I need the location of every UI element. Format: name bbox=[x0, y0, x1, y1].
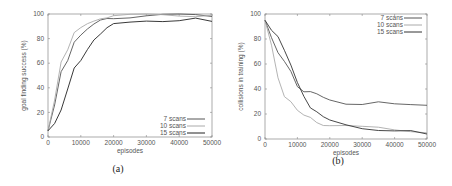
y-axis-label: collisions in training (%) bbox=[237, 42, 245, 110]
y-tick-label: 0 bbox=[40, 133, 44, 140]
figure-caption: (b) bbox=[332, 155, 344, 167]
legend-label: 15 scans bbox=[377, 28, 404, 35]
legend-label: 15 scans bbox=[160, 129, 187, 136]
x-axis-label: episodes bbox=[117, 147, 144, 155]
legend-label: 7 scans bbox=[164, 115, 187, 122]
x-tick-label: 40000 bbox=[386, 141, 404, 148]
x-tick-label: 20000 bbox=[321, 141, 339, 148]
y-tick-label: 20 bbox=[37, 109, 45, 116]
chart-a: 02040608010001000020000300004000050000ep… bbox=[20, 10, 221, 175]
series-line bbox=[265, 20, 427, 133]
series-line bbox=[265, 20, 427, 134]
x-tick-label: 0 bbox=[46, 139, 50, 146]
figure: 02040608010001000020000300004000050000ep… bbox=[0, 0, 452, 186]
x-tick-label: 30000 bbox=[137, 139, 155, 146]
legend-label: 7 scans bbox=[381, 14, 404, 21]
x-tick-label: 10000 bbox=[288, 141, 306, 148]
y-tick-label: 40 bbox=[254, 85, 262, 92]
x-tick-label: 40000 bbox=[170, 139, 188, 146]
y-tick-label: 80 bbox=[37, 35, 45, 42]
chart-b: 02040608010001000020000300004000050000ep… bbox=[237, 10, 436, 167]
x-tick-label: 30000 bbox=[353, 141, 371, 148]
y-axis-label: goal finding success (%) bbox=[20, 40, 28, 110]
x-tick-label: 50000 bbox=[203, 139, 221, 146]
y-tick-label: 0 bbox=[257, 135, 261, 142]
y-tick-label: 20 bbox=[254, 110, 262, 117]
y-tick-label: 60 bbox=[37, 59, 45, 66]
y-tick-label: 100 bbox=[250, 10, 261, 17]
x-tick-label: 10000 bbox=[72, 139, 90, 146]
legend-label: 10 scans bbox=[160, 122, 187, 129]
x-tick-label: 50000 bbox=[418, 141, 436, 148]
legend-label: 10 scans bbox=[377, 21, 404, 28]
x-tick-label: 0 bbox=[263, 141, 267, 148]
x-tick-label: 20000 bbox=[105, 139, 123, 146]
figure-caption: (a) bbox=[112, 163, 123, 175]
y-tick-label: 100 bbox=[33, 10, 44, 17]
series-line bbox=[48, 18, 212, 131]
y-tick-label: 60 bbox=[254, 60, 262, 67]
y-tick-label: 80 bbox=[254, 35, 262, 42]
y-tick-label: 40 bbox=[37, 84, 45, 91]
